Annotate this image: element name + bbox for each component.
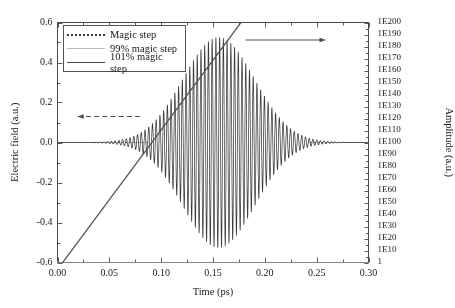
x-tick-label-1: 0.05 [89,268,129,278]
y2-tick-label-12: 1E80 [378,161,422,170]
y2-tick-label-11: 1E90 [378,149,422,158]
x-tick-label-3: 0.15 [193,268,233,278]
legend-label-101-magic-step: 101% magic step [110,51,181,75]
y-tick-label-6: -0.6 [22,257,53,267]
legend-swatch-magic-step [67,31,105,39]
y2-tick-label-17: 1E30 [378,221,422,230]
y2-axis-title: Amplitude (a.u.) [443,87,454,197]
y2-tick-label-1: 1E190 [378,29,422,38]
y-tick-label-3: 0.0 [22,137,53,147]
y-tick-label-5: -0.4 [22,217,53,227]
y2-tick-label-8: 1E120 [378,113,422,122]
legend-label-magic-step: Magic step [110,29,156,41]
y2-tick-label-5: 1E150 [378,77,422,86]
y2-tick-label-13: 1E70 [378,173,422,182]
x-axis-title: Time (ps) [153,287,273,298]
y2-tick-label-9: 1E110 [378,125,422,134]
y2-tick-label-6: 1E140 [378,89,422,98]
legend-item-101-magic-step: 101% magic step [67,56,181,70]
y2-tick-label-0: 1E200 [378,17,422,26]
legend-swatch-101-magic-step [67,59,105,67]
y2-tick-label-15: 1E50 [378,197,422,206]
y2-tick-label-4: 1E160 [378,65,422,74]
y2-tick-label-14: 1E60 [378,185,422,194]
y-tick-label-2: 0.2 [22,97,53,107]
y-tick-label-1: 0.4 [22,57,53,67]
legend-item-magic-step: Magic step [67,28,181,42]
y2-tick-label-16: 1E40 [378,209,422,218]
y2-tick-label-20: 1 [378,257,422,266]
y2-tick-label-3: 1E170 [378,53,422,62]
x-tick-label-2: 0.10 [141,268,181,278]
x-tick-label-6: 0.30 [349,268,389,278]
y-tick-label-0: 0.6 [22,17,53,27]
chart-legend: Magic step 99% magic step 101% magic ste… [63,25,186,72]
y2-tick-label-10: 1E100 [378,137,422,146]
y-tick-label-4: -0.2 [22,177,53,187]
y2-tick-label-19: 1E10 [378,245,422,254]
y2-tick-label-18: 1E20 [378,233,422,242]
y2-tick-label-7: 1E130 [378,101,422,110]
y-axis-title: Electric field (a.u.) [9,67,20,217]
y2-tick-label-2: 1E180 [378,41,422,50]
x-tick-label-0: 0.00 [38,268,78,278]
x-tick-label-5: 0.25 [297,268,337,278]
legend-swatch-99-magic-step [67,45,105,53]
x-tick-label-4: 0.20 [245,268,285,278]
